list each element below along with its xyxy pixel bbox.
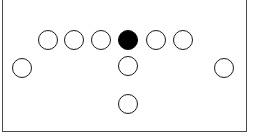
front-line-player-1[interactable] (38, 30, 58, 50)
front-line-player-3[interactable] (91, 30, 111, 50)
front-line-player-6[interactable] (173, 30, 193, 50)
front-line-player-center[interactable] (118, 30, 138, 50)
second-line-player-center[interactable] (118, 56, 138, 76)
back-line-player-center[interactable] (118, 94, 138, 114)
front-line-player-5[interactable] (146, 30, 166, 50)
front-line-player-2[interactable] (64, 30, 84, 50)
second-line-player-left-wide[interactable] (12, 58, 32, 78)
formation-diagram (0, 0, 254, 136)
second-line-player-right-wide[interactable] (214, 58, 234, 78)
